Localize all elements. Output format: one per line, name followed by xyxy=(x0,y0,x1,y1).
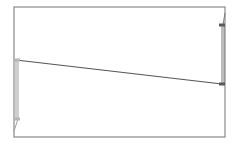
diagram-canvas xyxy=(0,0,233,147)
diagram-svg xyxy=(0,0,233,147)
connector-line xyxy=(16,60,222,84)
left-top-marker xyxy=(14,59,20,62)
left-bottom-marker xyxy=(14,118,20,121)
right-top-marker xyxy=(219,24,225,27)
right-bottom-marker xyxy=(219,83,225,86)
